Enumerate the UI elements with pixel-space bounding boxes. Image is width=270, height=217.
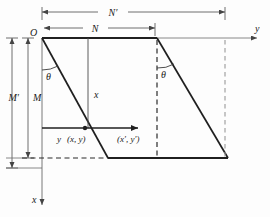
construction-lines: [6, 40, 225, 168]
point-source-label: (x, y): [67, 134, 85, 144]
dimension-m-prime-label: M′: [7, 92, 19, 103]
dimension-m: M: [22, 38, 42, 158]
offset-label-y: y: [56, 134, 61, 144]
angle-theta-right: θ: [157, 64, 174, 80]
parallelogram-right-slant: [157, 38, 228, 158]
height-label-x: x: [93, 89, 99, 100]
dimension-m-label: M: [32, 92, 42, 103]
angle-label-right: θ: [161, 69, 166, 80]
shear-transformation-diagram: N′ N M′ M y x: [0, 0, 270, 217]
dimension-n-label: N: [91, 23, 100, 34]
figure-container: N′ N M′ M y x: [0, 0, 270, 217]
origin-label: O: [30, 27, 37, 38]
dimension-n-prime: N′: [42, 7, 225, 21]
angle-arc-left: [42, 66, 58, 70]
angle-arc-right: [157, 64, 174, 68]
x-axis-label: x: [31, 194, 37, 205]
dimension-n: N: [44, 23, 155, 37]
point-source-marker: [83, 126, 87, 130]
height-measure-x: x: [88, 38, 99, 128]
y-axis-label: y: [254, 23, 260, 34]
angle-theta-left: θ: [42, 66, 58, 82]
angle-label-left: θ: [46, 71, 51, 82]
displacement-arrow: y (x, y) (x′, y′): [42, 126, 139, 144]
dimension-m-prime: M′: [6, 38, 20, 168]
dimension-n-prime-label: N′: [108, 7, 119, 18]
point-target-label: (x′, y′): [117, 134, 139, 144]
